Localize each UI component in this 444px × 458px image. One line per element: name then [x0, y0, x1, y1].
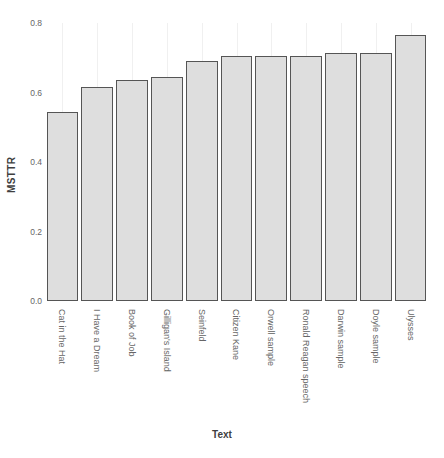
x-tick-label: Ulysses [406, 309, 416, 341]
x-tick: Ulysses [393, 303, 428, 425]
bar-book-of-job [116, 80, 148, 301]
y-tick-label: 0.4 [2, 157, 42, 167]
x-tick: Ronald Reagan speech [289, 303, 324, 425]
x-tick-label: I Have a Dream [92, 309, 102, 372]
bar-cat-in-the-hat [47, 112, 79, 301]
x-axis-tick-labels: Cat in the HatI Have a DreamBook of JobG… [45, 303, 428, 428]
x-tick: Darwin sample [324, 303, 359, 425]
bar-seinfeld [186, 61, 218, 301]
x-tick: Seinfeld [184, 303, 219, 425]
plot-area [45, 23, 428, 301]
msttr-bar-chart: MSTTR 0.00.20.40.60.8 Cat in the HatI Ha… [0, 0, 444, 458]
x-axis-title: Text [0, 429, 444, 440]
bar-ronald-reagan-speech [290, 56, 322, 301]
y-tick-label: 0.0 [2, 296, 42, 306]
y-axis-tick-labels: 0.00.20.40.60.8 [0, 23, 42, 301]
x-tick: Cat in the Hat [45, 303, 80, 425]
bar-i-have-a-dream [81, 87, 113, 301]
x-tick-label: Seinfeld [197, 309, 207, 342]
bar-orwell-sample [255, 56, 287, 301]
x-tick-label: Ronald Reagan speech [301, 309, 311, 403]
x-tick: Orwell sample [254, 303, 289, 425]
x-tick-label: Book of Job [127, 309, 137, 357]
x-tick: Gilligan's Island [149, 303, 184, 425]
x-tick: Citizen Kane [219, 303, 254, 425]
x-tick: Book of Job [115, 303, 150, 425]
x-tick-label: Doyle sample [371, 309, 381, 364]
y-tick-label: 0.2 [2, 227, 42, 237]
x-tick: I Have a Dream [80, 303, 115, 425]
x-tick-label: Cat in the Hat [57, 309, 67, 364]
bar-gilligan-s-island [151, 77, 183, 301]
x-tick-label: Citizen Kane [231, 309, 241, 360]
x-tick-label: Orwell sample [266, 309, 276, 366]
y-tick-label: 0.6 [2, 88, 42, 98]
y-tick-label: 0.8 [2, 18, 42, 28]
x-tick-label: Gilligan's Island [162, 309, 172, 372]
x-tick: Doyle sample [358, 303, 393, 425]
bar-citizen-kane [221, 56, 253, 301]
x-tick-label: Darwin sample [336, 309, 346, 369]
bar-doyle-sample [360, 53, 392, 301]
bar-ulysses [395, 35, 427, 301]
bar-darwin-sample [325, 53, 357, 301]
